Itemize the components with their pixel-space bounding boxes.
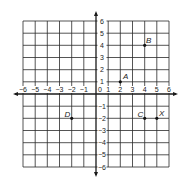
point-D-label: D [65,110,71,119]
point-C-label: C [138,110,144,119]
point-D-dot [70,117,73,120]
x-tick-m6: −6 [19,86,27,93]
x-tick-m5: −5 [31,86,39,93]
point-B-label: B [146,36,152,45]
y-tick-p1: 1 [100,78,104,85]
y-axis-up-arrow-icon [94,11,98,16]
coordinate-grid-svg: −6 −5 −4 −3 −2 −1 0 1 2 3 4 5 6 6 5 4 3 … [0,0,185,185]
x-tick-p1: 1 [106,86,110,93]
x-axis-left-arrow-icon [13,92,18,96]
y-tick-p6: 6 [100,18,104,25]
point-A-label: A [122,72,128,81]
y-tick-m3: −3 [98,127,106,134]
x-tick-p5: 5 [155,86,159,93]
y-tick-p5: 5 [100,30,104,37]
y-tick-m5: −5 [98,151,106,158]
x-tick-m3: −3 [56,86,64,93]
y-tick-m4: −4 [98,139,106,146]
x-tick-m4: −4 [43,86,51,93]
point-C-dot [143,117,146,120]
y-tick-p3: 3 [100,54,104,61]
origin-label: 0 [98,86,102,93]
y-tick-m1: −1 [98,103,106,110]
point-X-label: X [158,109,165,118]
y-axis-down-arrow-icon [94,172,98,177]
point-X-dot [155,117,158,120]
y-tick-m2: −2 [98,115,106,122]
x-tick-p3: 3 [131,86,135,93]
point-A-dot [119,80,122,83]
y-tick-p4: 4 [100,42,104,49]
coordinate-plane: −6 −5 −4 −3 −2 −1 0 1 2 3 4 5 6 6 5 4 3 … [0,0,185,185]
y-tick-p2: 2 [100,66,104,73]
x-tick-p2: 2 [118,86,122,93]
x-tick-m2: −2 [68,86,76,93]
x-tick-p4: 4 [143,86,147,93]
y-tick-m6: −6 [98,164,106,171]
x-tick-p6: 6 [167,86,171,93]
x-axis-right-arrow-icon [173,92,178,96]
x-tick-m1: −1 [80,86,88,93]
